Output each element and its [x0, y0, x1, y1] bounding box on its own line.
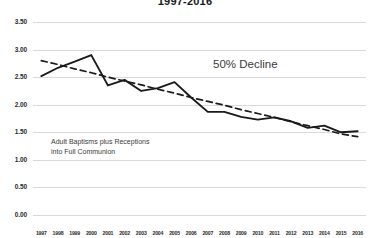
x-axis-tick-label: 1999 — [69, 230, 80, 236]
annotation-series-label: Adult Baptisms plus Receptions into Full… — [51, 137, 149, 157]
annotation-series-line1: Adult Baptisms plus Receptions — [51, 137, 149, 147]
trendline-path — [41, 61, 357, 137]
y-axis-tick-label: 1.50 — [0, 128, 27, 135]
x-axis-tick-label: 2011 — [269, 230, 279, 236]
x-axis-tick-label: 1998 — [53, 230, 64, 236]
annotation-series-line2: into Full Communion — [51, 147, 149, 157]
y-axis-tick-label: 1.00 — [0, 156, 27, 163]
chart-container: 1997-2016 3.503.002.502.001.501.000.500.… — [0, 0, 370, 238]
chart-title: 1997-2016 — [0, 0, 370, 7]
x-axis-tick-label: 2003 — [136, 230, 147, 236]
x-axis-tick-label: 2004 — [153, 230, 164, 236]
y-axis-tick-label: 2.50 — [0, 73, 27, 80]
x-axis-tick-label: 2014 — [319, 230, 330, 236]
x-axis-tick-label: 2010 — [252, 230, 263, 236]
x-axis-tick-label: 2000 — [86, 230, 97, 236]
annotation-decline: 50% Decline — [213, 58, 278, 70]
x-axis-tick-label: 2002 — [119, 230, 130, 236]
x-axis-tick-label: 2006 — [186, 230, 197, 236]
x-axis-tick-label: 1997 — [36, 230, 47, 236]
y-axis-tick-label: 3.00 — [0, 46, 27, 53]
x-axis-tick-label: 2001 — [103, 230, 114, 236]
x-axis-tick-label: 2005 — [169, 230, 180, 236]
plot-area — [33, 22, 366, 215]
gridline — [33, 215, 366, 216]
data-lines — [33, 22, 366, 215]
x-axis-tick-label: 2009 — [236, 230, 247, 236]
x-axis-tick-label: 2008 — [219, 230, 230, 236]
y-axis-tick-label: 3.50 — [0, 18, 27, 25]
data-series-path — [41, 55, 357, 132]
x-axis-tick-label: 2012 — [286, 230, 297, 236]
y-axis-tick-label: 0.50 — [0, 183, 27, 190]
y-axis-tick-label: 0.00 — [0, 211, 27, 218]
y-axis-tick-label: 2.00 — [0, 101, 27, 108]
x-axis-tick-label: 2007 — [202, 230, 213, 236]
x-axis-tick-label: 2016 — [352, 230, 363, 236]
x-axis-tick-label: 2015 — [336, 230, 347, 236]
x-axis-tick-label: 2013 — [302, 230, 313, 236]
